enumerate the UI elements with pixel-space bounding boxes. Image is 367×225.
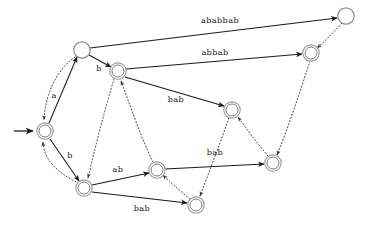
edge-label-a: a (51, 90, 56, 100)
fail-link-b-to-bottom-left (88, 79, 114, 178)
automaton-diagram: a b b ababbab abbab bab ab bab bab (0, 0, 367, 225)
solid-edge-layer (49, 18, 337, 203)
fail-link-bottom-right-to-mid-right (238, 117, 268, 156)
node-layer (37, 8, 354, 213)
edge-label-abbab: abbab (201, 47, 228, 57)
state-bottom-middle[interactable] (149, 162, 165, 178)
edge-label-b-lower: b (67, 150, 73, 160)
edge-label-bab-upper: bab (168, 94, 184, 104)
fail-link-right-to-bottom-right (277, 61, 310, 155)
state-bottom-right[interactable] (265, 155, 281, 171)
edge-bab-lower (92, 192, 187, 203)
edge-bab-middle (165, 164, 264, 169)
state-start[interactable] (37, 123, 53, 139)
fail-link-top-left-to-start (44, 57, 75, 120)
fail-link-bottom-to-bottom-middle (163, 175, 190, 199)
fail-link-bottom-middle-to-b (121, 81, 153, 162)
state-right[interactable] (303, 45, 319, 61)
state-top-right[interactable] (338, 8, 354, 24)
state-b[interactable] (110, 63, 126, 79)
edge-label-bab-middle: bab (207, 147, 223, 157)
fail-link-top-right-to-right (317, 23, 342, 48)
state-top-left[interactable] (74, 42, 90, 58)
fail-link-mid-right-to-bottom (200, 118, 229, 196)
edge-label-bab-lower: bab (134, 203, 150, 213)
edge-label-ab: ab (113, 164, 124, 174)
edge-label-b-upper: b (96, 63, 102, 73)
state-bottom[interactable] (188, 197, 204, 213)
automaton-canvas: a b b ababbab abbab bab ab bab bab (0, 0, 367, 225)
state-bottom-left[interactable] (76, 180, 92, 196)
state-mid-right[interactable] (224, 102, 240, 118)
edge-label-ababbab: ababbab (201, 15, 239, 25)
fail-link-bottom-left-to-start (43, 142, 76, 182)
edge-ab (92, 173, 149, 185)
